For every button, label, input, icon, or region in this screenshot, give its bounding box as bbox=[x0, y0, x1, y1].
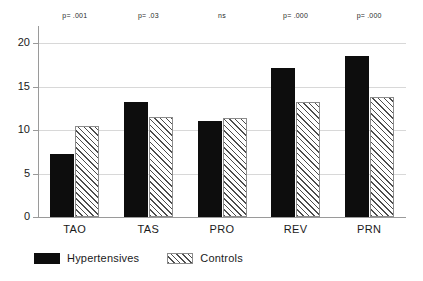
x-tick-label-tao: TAO bbox=[45, 223, 105, 235]
x-tick-label-pro: PRO bbox=[192, 223, 252, 235]
bar-group bbox=[271, 26, 320, 217]
bar-controls[interactable] bbox=[296, 102, 320, 217]
significance-label: p= .001 bbox=[45, 12, 105, 19]
x-tick-label-rev: REV bbox=[266, 223, 326, 235]
significance-label: p= .000 bbox=[266, 12, 326, 19]
x-tick-label-tas: TAS bbox=[118, 223, 178, 235]
chart-figure: 05101520 p= .001p= .03nsp= .000p= .000 T… bbox=[0, 0, 423, 281]
bar-group bbox=[198, 26, 247, 217]
bar-controls[interactable] bbox=[149, 117, 173, 217]
y-tick-mark bbox=[33, 217, 39, 218]
bar-controls[interactable] bbox=[75, 126, 99, 217]
bar-hypertensives[interactable] bbox=[50, 154, 74, 217]
bar-group bbox=[124, 26, 173, 217]
significance-label: ns bbox=[192, 12, 252, 19]
legend-label-controls: Controls bbox=[200, 252, 243, 264]
legend-swatch-hatch-icon bbox=[167, 253, 193, 264]
y-tick-label: 5 bbox=[4, 168, 30, 179]
bar-hypertensives[interactable] bbox=[198, 121, 222, 217]
legend-label-hypertensives: Hypertensives bbox=[67, 252, 139, 264]
bar-hypertensives[interactable] bbox=[271, 68, 295, 217]
x-tick-label-prn: PRN bbox=[339, 223, 399, 235]
legend-item-controls: Controls bbox=[167, 252, 243, 264]
y-tick-label: 15 bbox=[4, 81, 30, 92]
legend-swatch-solid-icon bbox=[34, 253, 60, 264]
x-axis-line bbox=[38, 217, 406, 218]
bar-group bbox=[345, 26, 394, 217]
y-tick-label: 20 bbox=[4, 37, 30, 48]
y-tick-label: 0 bbox=[4, 211, 30, 222]
y-tick-label: 10 bbox=[4, 124, 30, 135]
bar-controls[interactable] bbox=[370, 97, 394, 217]
bar-group bbox=[50, 26, 99, 217]
significance-label: p= .03 bbox=[118, 12, 178, 19]
significance-label: p= .000 bbox=[339, 12, 399, 19]
bar-hypertensives[interactable] bbox=[124, 102, 148, 217]
bar-controls[interactable] bbox=[223, 118, 247, 217]
bar-hypertensives[interactable] bbox=[345, 56, 369, 217]
chart-legend: Hypertensives Controls bbox=[34, 252, 271, 264]
plot-area bbox=[38, 26, 406, 217]
legend-item-hypertensives: Hypertensives bbox=[34, 252, 139, 264]
